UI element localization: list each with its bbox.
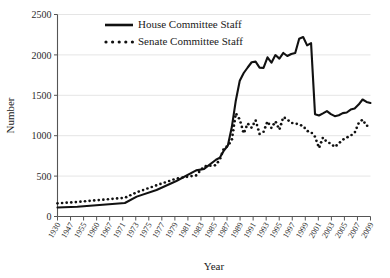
senate-dot bbox=[357, 122, 360, 125]
series-house bbox=[58, 37, 371, 207]
x-tick-label: 1930 bbox=[46, 221, 62, 240]
x-tick-label: 2007 bbox=[346, 221, 362, 240]
senate-dot bbox=[177, 177, 180, 180]
senate-dot bbox=[256, 124, 259, 127]
senate-dot bbox=[366, 124, 369, 127]
y-axis-title: Number bbox=[4, 97, 16, 133]
senate-dot bbox=[65, 201, 68, 204]
senate-dot bbox=[233, 124, 236, 127]
x-tick-label: 1993 bbox=[255, 221, 271, 240]
legend-label: House Committee Staff bbox=[138, 18, 242, 30]
senate-dot bbox=[228, 142, 231, 145]
chart-legend: House Committee StaffSenate Committee St… bbox=[104, 18, 243, 47]
senate-dot bbox=[209, 164, 212, 167]
senate-dot bbox=[239, 121, 242, 124]
senate-dot bbox=[129, 194, 132, 197]
senate-dot bbox=[168, 180, 171, 183]
senate-dot bbox=[241, 126, 244, 129]
legend-swatch-senate bbox=[111, 40, 114, 43]
senate-dot bbox=[88, 200, 91, 203]
senate-dot bbox=[231, 133, 234, 136]
senate-dot bbox=[272, 123, 275, 126]
senate-dot bbox=[61, 202, 64, 205]
legend-swatch-senate bbox=[118, 40, 121, 43]
x-tick-label: 2003 bbox=[320, 221, 336, 240]
senate-dot bbox=[306, 130, 309, 133]
senate-dot bbox=[321, 137, 324, 140]
y-tick-label: 2000 bbox=[32, 50, 52, 61]
senate-dot bbox=[232, 129, 235, 132]
senate-dot bbox=[339, 141, 342, 144]
y-tick-label: 0 bbox=[47, 211, 52, 222]
senate-dot bbox=[277, 125, 280, 128]
y-tick-label: 1500 bbox=[32, 90, 52, 101]
senate-dot bbox=[283, 117, 286, 120]
x-tick-label: 1991 bbox=[242, 221, 258, 240]
y-tick-label: 1000 bbox=[32, 130, 52, 141]
senate-dot bbox=[257, 128, 260, 131]
senate-dot bbox=[238, 117, 241, 120]
committee-staff-line-chart: 05001000150020002500 1930194719551960196… bbox=[0, 0, 390, 278]
x-tick-label: 1967 bbox=[99, 221, 115, 240]
senate-dot bbox=[275, 121, 278, 124]
x-tick-label: 1989 bbox=[229, 221, 245, 240]
senate-dot bbox=[328, 142, 331, 145]
x-axis-title: Year bbox=[204, 260, 225, 272]
legend-swatch-senate bbox=[104, 40, 107, 43]
senate-dot bbox=[97, 199, 100, 202]
senate-dot bbox=[252, 123, 255, 126]
x-tick-label: 1947 bbox=[59, 221, 75, 240]
senate-dot bbox=[287, 119, 290, 122]
senate-dot bbox=[233, 120, 236, 123]
senate-dot bbox=[125, 196, 128, 199]
senate-dot bbox=[231, 138, 234, 141]
senate-dot bbox=[70, 201, 73, 204]
senate-dot bbox=[163, 181, 166, 184]
senate-dot bbox=[245, 126, 248, 129]
senate-dot bbox=[79, 200, 82, 203]
senate-dot bbox=[142, 189, 145, 192]
senate-dot bbox=[155, 184, 158, 187]
senate-dot bbox=[300, 124, 303, 127]
senate-dot bbox=[346, 136, 349, 139]
senate-dot bbox=[159, 183, 162, 186]
senate-dot bbox=[355, 126, 358, 129]
senate-dot bbox=[324, 139, 327, 142]
y-axis-ticks: 05001000150020002500 bbox=[32, 9, 58, 222]
senate-dot bbox=[93, 199, 96, 202]
chart-container: 05001000150020002500 1930194719551960196… bbox=[0, 0, 390, 278]
x-tick-label: 1955 bbox=[72, 221, 88, 240]
senate-dot bbox=[56, 202, 59, 205]
x-tick-label: 1985 bbox=[203, 221, 219, 240]
senate-dot bbox=[350, 134, 353, 137]
senate-dot bbox=[84, 200, 87, 203]
y-tick-label: 500 bbox=[37, 171, 52, 182]
senate-dot bbox=[198, 171, 201, 174]
senate-dot bbox=[75, 201, 78, 204]
senate-dot bbox=[318, 145, 321, 148]
senate-dot bbox=[262, 130, 265, 133]
senate-dot bbox=[201, 167, 204, 170]
senate-dot bbox=[116, 197, 119, 200]
senate-dot bbox=[217, 161, 220, 164]
x-tick-label: 1981 bbox=[177, 221, 193, 240]
senate-dot bbox=[354, 131, 357, 134]
house-line bbox=[58, 37, 371, 207]
senate-dot bbox=[243, 130, 246, 133]
x-tick-label: 1995 bbox=[268, 221, 284, 240]
senate-dot bbox=[258, 133, 261, 136]
x-tick-label: 1975 bbox=[138, 221, 154, 240]
senate-dot bbox=[303, 127, 306, 130]
senate-dot bbox=[172, 178, 175, 181]
x-tick-label: 1960 bbox=[85, 221, 101, 240]
senate-dot bbox=[342, 138, 345, 141]
senate-dot bbox=[150, 186, 153, 189]
x-tick-label: 2009 bbox=[359, 221, 375, 240]
senate-dot bbox=[254, 119, 257, 122]
senate-dot bbox=[247, 123, 250, 126]
senate-dot bbox=[195, 174, 198, 177]
senate-dot bbox=[363, 121, 366, 124]
x-axis-ticks: 1930194719551960196719711973197519771979… bbox=[46, 217, 375, 240]
series-senate bbox=[56, 113, 368, 205]
senate-dot bbox=[360, 119, 363, 122]
